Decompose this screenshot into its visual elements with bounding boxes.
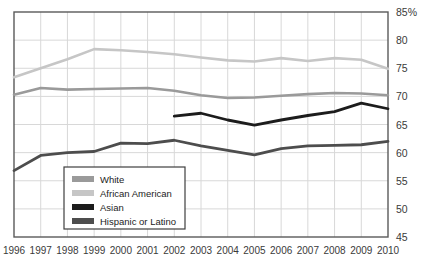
y-tick-label: 50 — [396, 203, 408, 215]
x-tick-label: 2006 — [270, 245, 293, 256]
y-tick-label: 65 — [396, 119, 408, 131]
y-tick-label: 80 — [396, 34, 408, 46]
legend-label: Hispanic or Latino — [100, 216, 176, 227]
y-tick-label: 70 — [396, 90, 408, 102]
line-chart: 455055606570758085% 19961997199819992000… — [0, 0, 428, 270]
chart-legend: WhiteAfrican AmericanAsianHispanic or La… — [64, 167, 185, 229]
x-tick-label: 2004 — [217, 245, 240, 256]
legend-swatch — [72, 190, 94, 196]
legend-label: Asian — [100, 202, 124, 213]
y-axis-tick-labels: 455055606570758085% — [396, 6, 417, 243]
x-tick-label: 2005 — [243, 245, 266, 256]
y-tick-label: 60 — [396, 147, 408, 159]
y-tick-label: 45 — [396, 231, 408, 243]
x-tick-label: 2001 — [136, 245, 159, 256]
x-tick-label: 2007 — [297, 245, 320, 256]
x-tick-label: 2010 — [377, 245, 400, 256]
x-axis-tick-labels: 1996199719981999200020012002200320042005… — [3, 245, 400, 256]
y-tick-label: 75 — [396, 62, 408, 74]
x-tick-label: 1996 — [3, 245, 26, 256]
chart-canvas: 455055606570758085% 19961997199819992000… — [0, 0, 428, 270]
y-tick-label: 55 — [396, 175, 408, 187]
x-tick-label: 2008 — [323, 245, 346, 256]
x-tick-label: 2000 — [110, 245, 133, 256]
y-tick-label: 85% — [396, 6, 417, 18]
x-tick-label: 2009 — [350, 245, 373, 256]
legend-swatch — [72, 218, 94, 224]
legend-swatch — [72, 204, 94, 210]
legend-label: White — [100, 174, 124, 185]
x-tick-label: 2002 — [163, 245, 186, 256]
x-tick-label: 1998 — [56, 245, 79, 256]
x-tick-label: 1999 — [83, 245, 106, 256]
legend-label: African American — [100, 188, 172, 199]
legend-swatch — [72, 176, 94, 182]
x-tick-label: 2003 — [190, 245, 213, 256]
x-tick-label: 1997 — [30, 245, 53, 256]
